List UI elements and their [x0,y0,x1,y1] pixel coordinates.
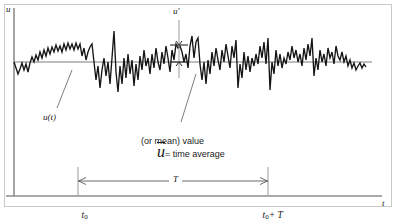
t0-tick-label: t0 [72,199,88,224]
signal-label: u(t) [43,112,56,123]
figure-canvas [0,0,396,224]
turbulence-figure: u t u′ u(t) u= time average (or mean) va… [0,0,396,224]
signal-leader-line [57,70,72,108]
fluctuation-label: u′ [173,6,179,17]
mean-caption-line-1: = time average [165,149,225,159]
y-axis-label: u [6,4,11,15]
mean-leader-line [181,74,196,122]
mean-value-caption: u= time average [141,124,225,181]
t0-subscript: 0 [84,213,88,221]
x-axis-label: t [382,198,385,209]
t0T-suffix: + T [269,210,283,220]
t0T-tick-label: t0+ T [253,199,283,224]
mean-caption-line-2: (or mean) value [141,136,204,147]
duration-label: T [169,174,182,185]
fluctuation-marker [170,20,188,78]
